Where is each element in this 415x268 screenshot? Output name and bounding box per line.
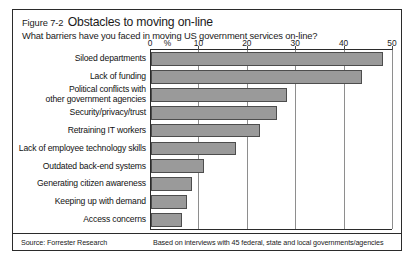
category-label-line: Lack of funding — [90, 72, 146, 82]
chart-row: Access concerns — [150, 211, 392, 229]
bar — [151, 159, 204, 173]
chart-row: Keeping up with demand — [150, 193, 392, 211]
category-label: Keeping up with demand — [55, 197, 146, 207]
bar — [151, 142, 236, 156]
bar — [151, 106, 277, 120]
category-label-line: Generating citizen awareness — [37, 179, 146, 189]
chart-row: Security/privacy/trust — [150, 104, 392, 122]
chart-row: Lack of employee technology skills — [150, 140, 392, 158]
gridline-tick-50 — [392, 46, 393, 50]
bar — [151, 88, 287, 102]
category-label-line: Lack of employee technology skills — [19, 144, 146, 154]
category-label-line: other government agencies — [46, 95, 146, 105]
x-axis-unit-label: % — [164, 38, 171, 48]
category-label: Access concerns — [83, 215, 146, 225]
chart-row: Siloed departments — [150, 50, 392, 68]
category-label-line: Siloed departments — [75, 54, 146, 64]
chart-row: Retraining IT workers — [150, 122, 392, 140]
bar — [151, 52, 383, 66]
category-label-line: Retraining IT workers — [68, 126, 146, 136]
category-label-line: Security/privacy/trust — [70, 108, 146, 118]
x-tick-label-0: 0 — [148, 38, 153, 48]
category-label: Political conflicts withother government… — [46, 85, 146, 104]
bar — [151, 124, 260, 138]
gridline-50 — [392, 50, 393, 229]
figure-number: Figure 7-2 — [22, 18, 63, 28]
bar — [151, 177, 192, 191]
source-note: Source: Forrester Research — [21, 238, 107, 247]
bar — [151, 195, 187, 209]
category-label-line: Access concerns — [83, 215, 146, 225]
basis-note: Based on interviews with 45 federal, sta… — [153, 238, 383, 247]
category-label-line: Outdated back-end systems — [43, 162, 146, 172]
chart-row: Lack of funding — [150, 68, 392, 86]
chart-plot-area: Siloed departmentsLack of fundingPolitic… — [150, 50, 392, 229]
page-title: Obstacles to moving on-line — [68, 15, 213, 29]
plot-bottom-border — [150, 229, 392, 230]
category-label: Lack of employee technology skills — [19, 144, 146, 154]
figure-panel: Figure 7-2 Obstacles to moving on-line W… — [12, 9, 402, 251]
category-label: Siloed departments — [75, 54, 146, 64]
chart-row: Outdated back-end systems — [150, 157, 392, 175]
footer-divider — [13, 233, 401, 234]
category-label: Generating citizen awareness — [37, 179, 146, 189]
category-label-line: Keeping up with demand — [55, 197, 146, 207]
category-label: Lack of funding — [90, 72, 146, 82]
bar — [151, 70, 362, 84]
chart-row: Political conflicts withother government… — [150, 86, 392, 104]
category-label: Security/privacy/trust — [70, 108, 146, 118]
category-label: Retraining IT workers — [68, 126, 146, 136]
category-label: Outdated back-end systems — [43, 162, 146, 172]
bar — [151, 213, 182, 227]
chart-row: Generating citizen awareness — [150, 175, 392, 193]
figure-title-line: Figure 7-2 Obstacles to moving on-line — [22, 14, 395, 30]
